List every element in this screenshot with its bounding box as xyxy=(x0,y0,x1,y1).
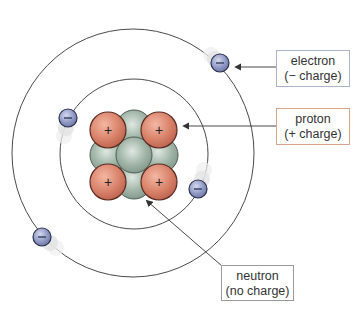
electron-inner-left xyxy=(56,109,77,144)
proton-label-charge: (+ charge) xyxy=(277,127,349,142)
electron-inner-right xyxy=(189,162,212,198)
svg-text:+: + xyxy=(155,174,163,190)
svg-text:+: + xyxy=(104,122,112,138)
nucleus: + + + + xyxy=(90,110,178,200)
neutron-label-charge: (no charge) xyxy=(222,284,293,299)
proton: + xyxy=(141,112,177,148)
proton-label: proton (+ charge) xyxy=(276,108,350,145)
neutron-label-name: neutron xyxy=(222,269,293,284)
svg-text:+: + xyxy=(104,174,112,190)
svg-text:+: + xyxy=(155,122,163,138)
neutron-label: neutron (no charge) xyxy=(221,265,294,301)
electron-label-name: electron xyxy=(277,54,349,69)
proton: + xyxy=(90,112,126,148)
neutron-pointer-arrow xyxy=(147,201,222,266)
electron-label: electron (− charge) xyxy=(276,50,350,87)
proton: + xyxy=(90,164,126,200)
atom-diagram: + + + + xyxy=(0,0,360,309)
electron-label-charge: (− charge) xyxy=(277,69,349,84)
electron-outer-bottom xyxy=(33,228,64,256)
electron-outer-top xyxy=(203,47,229,72)
proton: + xyxy=(141,164,177,200)
proton-label-name: proton xyxy=(277,112,349,127)
